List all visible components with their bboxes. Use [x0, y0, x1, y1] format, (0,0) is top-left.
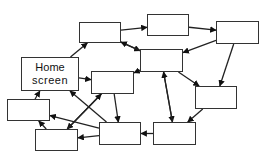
- home-screen-label: Home screen: [22, 61, 78, 87]
- node-b: [147, 14, 189, 36]
- edge-arrow-C-to-G: [220, 44, 234, 86]
- edge-arrow-C-to-D: [183, 40, 216, 52]
- node-h: [7, 99, 50, 121]
- node-a: [79, 22, 121, 43]
- edge-arrow-A-to-B: [121, 27, 147, 30]
- home-label-line2: screen: [22, 74, 78, 87]
- edge-arrow-K-to-D: [164, 72, 173, 122]
- home-label-line1: Home: [22, 61, 78, 74]
- home-screen-node: Home screen: [21, 57, 79, 91]
- node-c: [216, 21, 259, 44]
- node-k: [153, 122, 196, 145]
- edge-arrow-D-to-A: [121, 42, 140, 51]
- node-f: [91, 71, 134, 94]
- node-d: [140, 49, 183, 72]
- edge-arrow-B-to-C: [189, 27, 216, 30]
- node-g: [195, 86, 237, 109]
- edge-arrow-home-to-A: [70, 43, 87, 57]
- node-i: [35, 129, 78, 151]
- edge-arrow-J-to-home: [70, 91, 106, 122]
- edge-arrow-J-to-I: [78, 136, 99, 138]
- edge-arrow-H-to-home: [35, 91, 40, 99]
- edge-arrow-G-to-K: [188, 109, 203, 122]
- edge-arrow-home-to-F: [79, 78, 91, 80]
- edge-arrow-I-to-H: [39, 121, 46, 129]
- edge-arrow-J-to-H: [50, 116, 99, 129]
- edge-arrow-D-to-G: [178, 72, 199, 86]
- screen-flow-diagram: Home screen: [0, 0, 264, 152]
- node-j: [99, 122, 141, 145]
- edge-arrow-F-to-J: [114, 94, 118, 122]
